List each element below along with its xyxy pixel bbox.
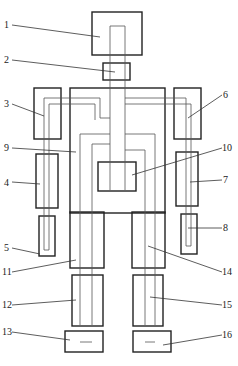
label-15: 15 xyxy=(222,299,232,310)
diagram: 1 2 3 4 5 6 7 8 9 10 11 12 13 14 15 16 xyxy=(0,0,238,366)
label-13: 13 xyxy=(2,326,12,337)
label-12: 12 xyxy=(2,299,12,310)
label-6: 6 xyxy=(223,89,228,100)
label-11: 11 xyxy=(2,266,12,277)
left-thigh-block xyxy=(70,212,104,268)
label-16: 16 xyxy=(222,329,232,340)
right-forearm-block xyxy=(176,152,198,206)
left-forearm-block xyxy=(36,154,58,208)
label-3: 3 xyxy=(4,98,9,109)
right-hand-block xyxy=(181,214,197,254)
label-1: 1 xyxy=(4,19,9,30)
torso-block xyxy=(70,88,165,213)
left-foot-block xyxy=(65,331,103,352)
label-9: 9 xyxy=(4,142,9,153)
label-2: 2 xyxy=(4,54,9,65)
label-7: 7 xyxy=(223,174,228,185)
leader-lines xyxy=(12,25,222,345)
core-unit-block xyxy=(98,162,136,191)
right-upper-arm-block xyxy=(174,88,201,139)
label-14: 14 xyxy=(222,266,232,277)
label-10: 10 xyxy=(222,142,232,153)
right-foot-block xyxy=(133,331,171,352)
label-5: 5 xyxy=(4,242,9,253)
left-shin-block xyxy=(72,275,103,326)
label-4: 4 xyxy=(4,177,9,188)
head-block xyxy=(92,12,142,55)
diagram-canvas: 1 2 3 4 5 6 7 8 9 10 11 12 13 14 15 16 xyxy=(0,0,238,366)
right-shin-block xyxy=(133,275,163,326)
label-8: 8 xyxy=(223,222,228,233)
right-thigh-block xyxy=(132,212,165,268)
neck-block xyxy=(103,63,130,80)
wiring xyxy=(44,26,191,342)
